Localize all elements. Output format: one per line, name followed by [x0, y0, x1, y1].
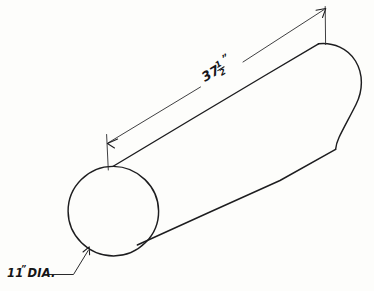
diameter-note-abbreviation: DIA. [28, 266, 56, 280]
diameter-note-inch-mark: ” [21, 265, 26, 274]
length-dimension-text-group: 37 1 2 ” [197, 52, 236, 87]
right-end-cap-arc [319, 44, 362, 150]
extension-line-left [107, 135, 109, 171]
cylinder-drawing: 37 1 2 ” 11 ” DIA. [0, 0, 374, 291]
diameter-note-text-group: 11 ” DIA. [7, 265, 56, 280]
length-dimension-line-right-segment [243, 10, 324, 63]
left-end-face-circle [68, 166, 159, 256]
technical-drawing-canvas: 37 1 2 ” 11 ” DIA. [0, 0, 374, 291]
length-dimension-inch-mark: ” [220, 52, 230, 64]
cylinder-bottom-edge [137, 149, 335, 245]
length-dimension-line-left-segment [108, 87, 200, 143]
length-dimension-group: 37 1 2 ” [107, 7, 326, 171]
diameter-note-group: 11 ” DIA. [7, 247, 90, 280]
